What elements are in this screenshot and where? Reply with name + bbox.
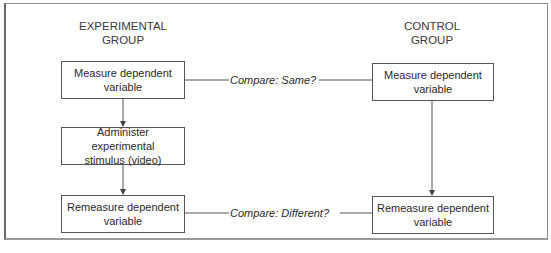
experimental-group-heading: EXPERIMENTAL GROUP: [60, 19, 186, 47]
step-text-line2: variable: [67, 214, 179, 228]
experimental-step-remeasure: Remeasure dependent variable: [61, 195, 185, 233]
step-text-line2: variable: [384, 82, 482, 96]
compare-different-label: Compare: Different?: [229, 206, 330, 220]
step-text-line2: variable: [74, 80, 172, 94]
step-text-line1: Remeasure dependent: [67, 200, 179, 214]
experimental-step-measure: Measure dependent variable: [61, 61, 185, 99]
step-text-line2: variable: [377, 215, 489, 229]
control-step-remeasure: Remeasure dependent variable: [372, 196, 494, 234]
step-text-line1: Remeasure dependent: [377, 201, 489, 215]
step-text-line2: stimulus (video): [66, 153, 180, 167]
experimental-step-administer-stimulus: Administer experimental stimulus (video): [61, 127, 185, 165]
control-step-measure: Measure dependent variable: [372, 63, 494, 101]
control-group-heading: CONTROL GROUP: [370, 19, 494, 47]
compare-same-label: Compare: Same?: [229, 73, 317, 87]
step-text-line1: Measure dependent: [384, 68, 482, 82]
step-text-line1: Administer experimental: [66, 125, 180, 153]
experimental-heading-line2: GROUP: [60, 33, 186, 47]
control-heading-line2: GROUP: [370, 33, 494, 47]
step-text-line1: Measure dependent: [74, 66, 172, 80]
control-heading-line1: CONTROL: [370, 19, 494, 33]
experimental-heading-line1: EXPERIMENTAL: [60, 19, 186, 33]
